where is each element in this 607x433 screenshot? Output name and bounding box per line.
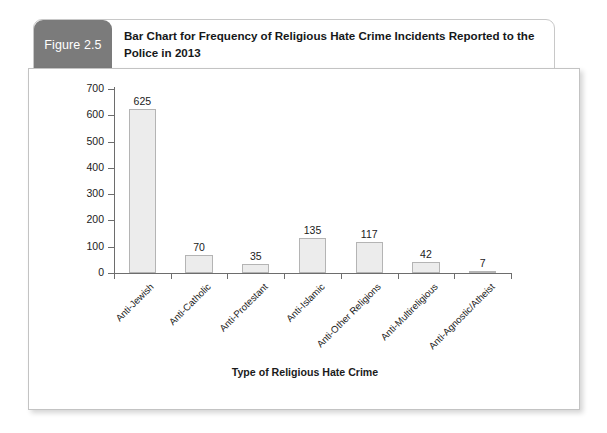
- bar-chart: 0100200300400500600700 6257035135117427 …: [29, 69, 581, 411]
- y-axis-tick-label: 400: [86, 161, 104, 173]
- figure-number-tab: Figure 2.5: [34, 20, 112, 69]
- bar: 7: [469, 271, 496, 273]
- bar-value-label: 70: [193, 241, 205, 253]
- y-axis-tick-label: 0: [98, 266, 104, 278]
- x-axis-tick: [284, 274, 285, 279]
- x-axis-tick: [114, 274, 115, 279]
- x-axis-tick: [398, 274, 399, 279]
- bar-value-label: 625: [134, 95, 152, 107]
- bar-value-label: 135: [304, 224, 322, 236]
- y-axis-tick-label: 600: [86, 108, 104, 120]
- bar-value-label: 7: [480, 257, 486, 269]
- x-axis-category-label: Anti-Islamic: [283, 281, 326, 324]
- bar: 42: [412, 262, 439, 273]
- y-axis-tick-label: 200: [86, 213, 104, 225]
- bar: 135: [299, 238, 326, 273]
- chart-panel: 0100200300400500600700 6257035135117427 …: [28, 68, 580, 410]
- bar-value-label: 117: [361, 228, 378, 240]
- figure-header-card: Figure 2.5 Bar Chart for Frequency of Re…: [33, 19, 555, 69]
- bar-value-label: 42: [420, 248, 432, 260]
- x-axis-category-label: Anti-Protestant: [217, 281, 270, 334]
- plot-area: 6257035135117427: [114, 89, 511, 273]
- x-axis-tick: [341, 274, 342, 279]
- x-axis-tick: [454, 274, 455, 279]
- x-axis-line: [114, 273, 512, 274]
- y-axis-tick-label: 100: [86, 240, 104, 252]
- y-axis-tick-label: 300: [86, 187, 104, 199]
- bar: 70: [185, 255, 212, 273]
- figure-number-label: Figure 2.5: [44, 38, 101, 52]
- x-axis-category-label: Anti-Catholic: [167, 281, 213, 327]
- x-axis-category-label: Anti-Multireligious: [378, 281, 439, 342]
- bar: 625: [129, 109, 156, 273]
- x-axis-category-label: Anti-Other Religions: [314, 281, 382, 349]
- x-axis-category-label: Anti-Jewish: [114, 281, 156, 323]
- x-axis-tick: [171, 274, 172, 279]
- y-axis-tick-label: 500: [86, 135, 104, 147]
- figure-title: Bar Chart for Frequency of Religious Hat…: [124, 27, 544, 61]
- x-axis-tick: [511, 274, 512, 279]
- y-axis-tick-label: 700: [86, 82, 104, 94]
- x-axis-tick: [227, 274, 228, 279]
- bar: 117: [356, 242, 383, 273]
- bar: 35: [242, 264, 269, 273]
- bar-value-label: 35: [250, 250, 262, 262]
- x-axis-title: Type of Religious Hate Crime: [29, 366, 581, 378]
